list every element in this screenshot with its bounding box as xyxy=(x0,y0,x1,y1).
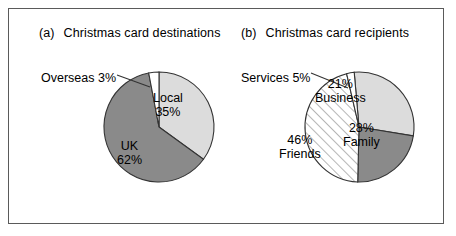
pie-a-label-overseas: Overseas 3% xyxy=(41,71,116,85)
panel-b-title: (b)Christmas card recipients xyxy=(241,26,409,40)
panel-b-tag: (b) xyxy=(241,26,257,40)
figure-frame: (a)Christmas card destinations Overseas … xyxy=(8,8,444,224)
pie-a-graphic xyxy=(103,71,215,183)
pie-a-svg xyxy=(103,71,215,183)
pie-b-label-services: Services 5% xyxy=(241,71,310,85)
pie-b-slice-family xyxy=(358,127,414,182)
panel-a-tag: (a) xyxy=(39,26,55,40)
pie-b-svg xyxy=(303,71,415,183)
panel-a-title-text: Christmas card destinations xyxy=(64,26,221,40)
pie-b-graphic xyxy=(303,71,415,183)
panel-a-title: (a)Christmas card destinations xyxy=(39,26,221,40)
pie-chart-panel-recipients: (b)Christmas card recipients xyxy=(241,9,445,223)
panel-b-title-text: Christmas card recipients xyxy=(266,26,410,40)
pie-chart-panel-destinations: (a)Christmas card destinations Overseas … xyxy=(9,9,241,223)
pie-b-slice-business xyxy=(354,72,414,136)
